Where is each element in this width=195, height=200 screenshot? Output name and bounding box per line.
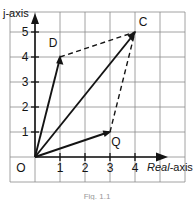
y-axis-label: j-axis <box>2 7 29 19</box>
y-axis-arrowhead <box>31 13 39 24</box>
y-tick-label-5: 5 <box>22 25 29 39</box>
y-tick-label-3: 3 <box>22 75 29 89</box>
x-tick-label-4: 4 <box>132 161 139 175</box>
y-tick-label-1: 1 <box>22 125 29 139</box>
y-tick-label-2: 2 <box>22 100 29 114</box>
x-tick-label-2: 2 <box>82 161 89 175</box>
origin-label: O <box>16 161 25 175</box>
point-label-D: D <box>49 36 58 50</box>
figure-caption: Fig. 1.1 <box>84 192 111 200</box>
y-tick-label-4: 4 <box>22 50 29 64</box>
x-axis-label-italic: Real <box>147 161 170 173</box>
x-tick-label-3: 3 <box>107 161 114 175</box>
dashed-D-to-C <box>60 32 135 57</box>
x-axis-label: Real-axis <box>147 161 193 173</box>
figure-container: D C Q O 5 4 3 2 1 1 2 3 4 j-axis Real-ax… <box>0 0 195 200</box>
point-label-C: C <box>139 15 148 29</box>
x-axis-label-plain: -axis <box>170 161 194 173</box>
x-tick-label-1: 1 <box>57 161 64 175</box>
argand-diagram-plot: D C Q O 5 4 3 2 1 1 2 3 4 j-axis Real-ax… <box>0 0 195 200</box>
point-label-Q: Q <box>111 135 120 149</box>
